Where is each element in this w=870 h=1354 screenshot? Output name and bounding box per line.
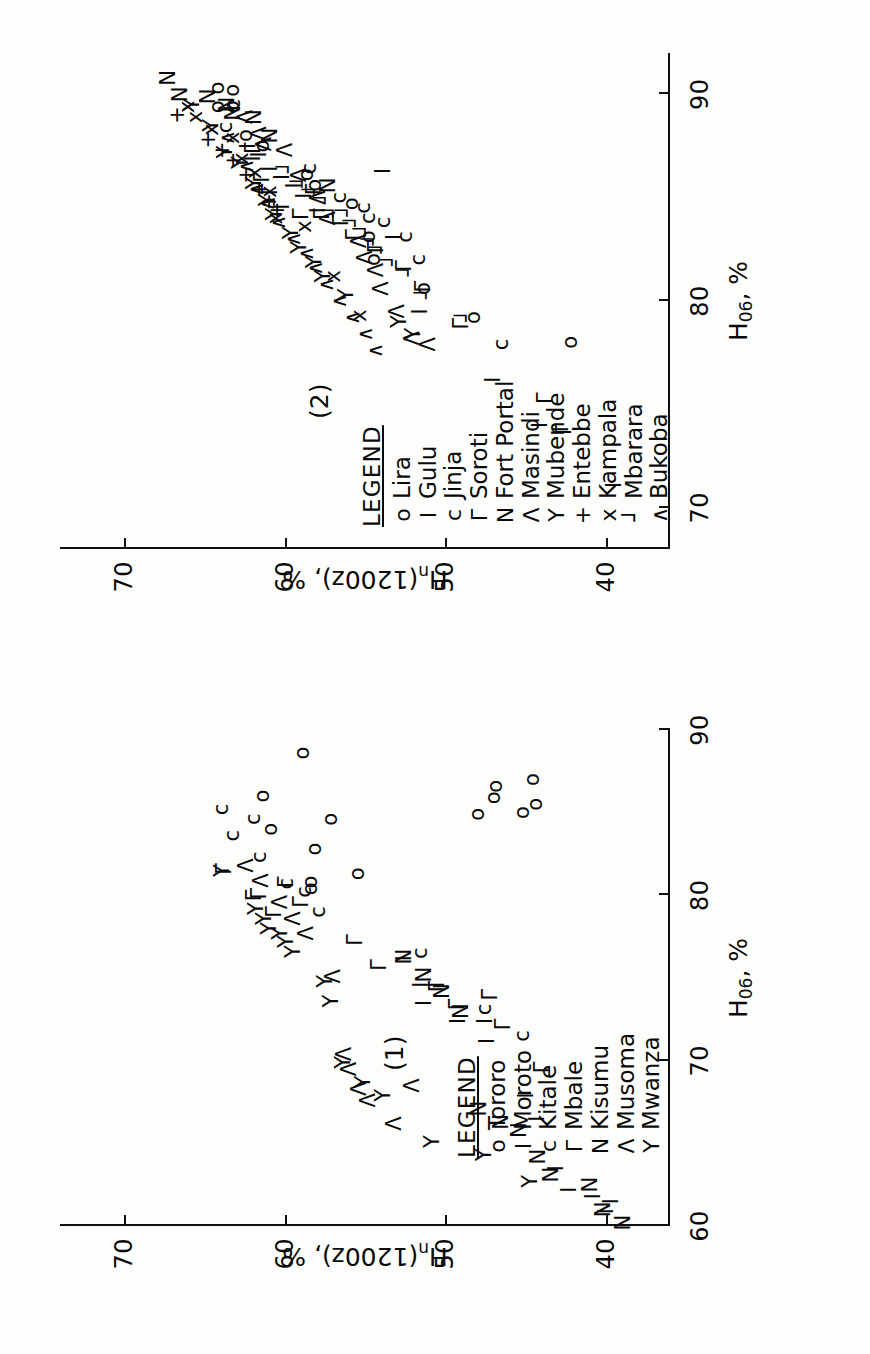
panel-2: (2) H06, % Hn(1200z), % 70809040506070oo…: [0, 0, 870, 677]
data-point-lira: o: [560, 336, 581, 349]
legend-symbol: Λ: [520, 503, 545, 527]
y-axis-line-2: [60, 547, 670, 549]
data-point-mwanza: Y: [353, 1076, 374, 1089]
legend-item: xKampala: [596, 381, 622, 527]
legend-item: ∧Bukoba: [647, 381, 673, 527]
x-tick-label: 70: [686, 1045, 714, 1077]
panel-tag-1: (1): [380, 1036, 409, 1071]
data-point-musoma: Λ: [383, 1116, 404, 1130]
legend-label: Jinja: [441, 451, 467, 503]
legend-symbol: o: [486, 1134, 511, 1158]
data-point-tororo: o: [319, 813, 340, 826]
data-point-kitale: c: [242, 814, 263, 826]
x-tick: [659, 1224, 670, 1226]
x-axis-label-main: H: [724, 322, 753, 341]
panel-1: (1) H06, % Hn(1200z), % 6070809040506070…: [0, 677, 870, 1354]
legend-label: Bukoba: [647, 413, 673, 503]
data-point-mubende: Y: [388, 315, 409, 328]
y-tick: [606, 538, 608, 549]
legend-symbol: Y: [545, 503, 570, 527]
data-point-kitale: c: [221, 830, 242, 842]
x-tick-label: 90: [686, 714, 714, 746]
data-point-mbale: Γ: [369, 959, 390, 971]
data-point-tororo: o: [521, 773, 542, 786]
data-point-kisumu: N: [414, 967, 435, 983]
x-axis-label-sub: 06: [736, 978, 756, 1000]
y-tick: [285, 1215, 287, 1226]
y-tick: [445, 538, 447, 549]
legend-title-1: LEGEND: [455, 1033, 481, 1158]
x-tick: [659, 893, 670, 895]
legend-label: Entebbe: [570, 403, 596, 503]
legend-2: LEGEND oLiraIGulucJinjaΓSorotiNFort Port…: [360, 381, 673, 527]
data-point-kitale: c: [210, 804, 231, 816]
legend-symbol: I: [417, 503, 442, 527]
data-point-bukoba: ∧: [282, 231, 303, 246]
data-point-mubende: Y: [403, 328, 424, 341]
data-point-soroti: Γ: [290, 208, 311, 220]
data-point-bukoba: ∧: [316, 277, 337, 292]
x-axis-label-tail: , %: [724, 938, 753, 978]
legend-symbol: +: [571, 503, 596, 527]
data-point-kisumu: N: [451, 1003, 472, 1019]
data-point-moroto: I: [558, 1187, 579, 1193]
legend-item: cJinja: [441, 381, 467, 527]
rotated-figure-wrapper: (1) H06, % Hn(1200z), % 6070809040506070…: [0, 0, 870, 1354]
figure: (1) H06, % Hn(1200z), % 6070809040506070…: [0, 0, 870, 1354]
data-point-bukoba: ∧: [245, 182, 266, 197]
y-tick-label: 70: [110, 1238, 138, 1278]
data-point-musoma: Λ: [401, 1078, 422, 1092]
panel-tag-2: (2): [305, 384, 334, 419]
data-point-bukoba: ∧: [305, 260, 326, 275]
data-point-musoma: Λ: [236, 858, 257, 872]
data-point-mwanza: Y: [372, 1089, 393, 1102]
legend-label: Mubende: [544, 393, 570, 504]
x-tick-label: 90: [686, 79, 714, 111]
data-point-bukoba: ∧: [329, 293, 350, 308]
data-point-bukoba: ∧: [295, 246, 316, 261]
legend-item: ΛMasindi: [519, 381, 545, 527]
legend-symbol: Y: [640, 1134, 665, 1158]
data-point-mbarara: ┘: [277, 160, 298, 173]
legend-title-2: LEGEND: [360, 381, 386, 527]
data-point-masindi: Λ: [371, 281, 392, 295]
data-point-fort-portal: N: [157, 70, 178, 86]
y-tick-label: 70: [110, 561, 138, 601]
y-axis-label-tail: (1200z), %: [282, 565, 418, 594]
data-point-gulu: I: [409, 308, 430, 314]
legend-item: ΓSoroti: [467, 381, 493, 527]
data-point-bukoba: ∧: [268, 215, 289, 230]
legend-item: cKitale: [536, 1033, 562, 1158]
y-axis-label-1: Hn(1200z), %: [282, 1239, 448, 1271]
x-tick-label: 80: [686, 880, 714, 912]
y-tick-label: 40: [592, 1238, 620, 1278]
legend-label: Mbale: [562, 1061, 588, 1134]
data-point-mwanza: Y: [520, 1175, 541, 1188]
legend-item: ΛMusoma: [614, 1033, 640, 1158]
data-point-kisumu: N: [579, 1177, 600, 1193]
data-point-kisumu: N: [432, 983, 453, 999]
data-point-musoma: Λ: [269, 895, 290, 909]
legend-item: ┘Mbarara: [622, 381, 648, 527]
y-tick: [285, 538, 287, 549]
y-tick-label: 40: [592, 561, 620, 601]
legend-label: Tororo: [485, 1060, 511, 1134]
legend-item: IMoroto: [511, 1033, 537, 1158]
data-point-tororo: o: [483, 791, 504, 804]
data-point-mbarara: ┘: [416, 286, 437, 299]
data-point-gulu: I: [372, 168, 393, 174]
data-point-bukoba: ∧: [257, 196, 278, 211]
data-point-bukoba: ∧: [236, 159, 257, 174]
data-point-masindi: Λ: [234, 110, 255, 124]
legend-symbol: Λ: [615, 1134, 640, 1158]
legend-symbol: ∧: [648, 503, 673, 527]
x-axis-label-1: H06, %: [724, 938, 756, 1018]
data-point-mwanza: Y: [332, 1056, 353, 1069]
y-tick: [124, 538, 126, 549]
x-axis-label-2: H06, %: [724, 261, 756, 341]
x-axis-label-main: H: [724, 999, 753, 1018]
data-point-musoma: Λ: [250, 873, 271, 887]
data-point-mbale: Γ: [480, 989, 501, 1001]
data-point-kitale: c: [473, 1004, 494, 1016]
x-tick: [659, 728, 670, 730]
